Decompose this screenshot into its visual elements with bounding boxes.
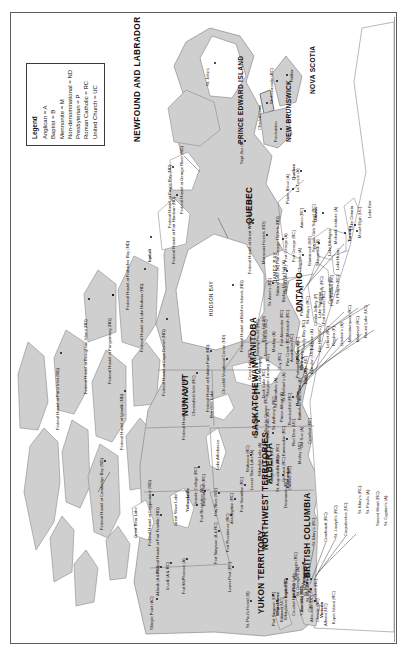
site-dot-lac-la-ronge (258, 392, 260, 394)
site-dot-mohawk-institute (356, 230, 358, 232)
callout-label-sacred-heart: Sacred Heart (RC) (376, 491, 380, 526)
site-label-ile-a-la-crosse: Ile-a-la-Crosse (RC) (264, 395, 268, 432)
site-dot-shubenacadie (276, 80, 278, 82)
city-label-st-johns: St. John's (206, 68, 210, 86)
site-dot-cambridge-bay (104, 460, 106, 462)
site-label-kamloops: Kamloops (RC) (294, 552, 298, 580)
site-label-desmarais: Desmarais (RC) (284, 479, 288, 508)
site-dot-baker-lake (186, 390, 188, 392)
site-label-eskimo-point: Federal Hostel at Eskimo Point (ND) (206, 345, 210, 413)
city-dot-vancouver (310, 578, 312, 580)
site-label-fort-george-hostels: Fort George Hostels (ND) (276, 216, 280, 264)
site-label-alberni: Alberni (UC) (324, 603, 328, 626)
site-dot-beauval (258, 420, 260, 422)
site-dot-coppermine (152, 494, 154, 496)
site-dot-st-annes (272, 282, 274, 284)
city-dot-regina (292, 396, 294, 398)
site-label-brandon: Brandon (UC) (310, 349, 314, 374)
callout-label-st-pauls-ab: St. Paul's (A) (366, 490, 370, 514)
site-dot-lake-harbour (144, 268, 146, 270)
callout-label-elkhorn: Elkhorn (A) (310, 329, 314, 350)
site-label-prince-albert: Prince Albert (A) (280, 392, 284, 422)
site-label-lac-la-ronge: Lac La Ronge (A) (254, 376, 258, 408)
province-label-ns: NOVA SCOTIA (310, 46, 317, 94)
site-label-port-simpson: Port Simpson (UC) (272, 592, 276, 626)
site-label-spanish-girls-school: Spanish Girls School (RC) (312, 204, 316, 252)
site-label-payne-bay: Federal Hostel at Payne Bay (ND) (168, 165, 172, 228)
site-label-fort-harrison: Federal Hostel at Fort Harrison (ND) (172, 197, 176, 264)
site-dot-port-simpson (276, 600, 278, 602)
site-label-beauval: Beauval (RC) (254, 413, 258, 438)
site-label-st-albert: St. Albert (RC) (276, 444, 280, 470)
site-dot-fort-harrison (176, 194, 178, 196)
site-label-sept-iles: Sept-Iles (RC) (240, 138, 244, 164)
site-label-red-deer: Red Deer (UC) (292, 419, 296, 446)
site-dot-grandin-college (198, 466, 200, 468)
site-label-poplar-hill: Poplar Hill (M) (262, 316, 266, 342)
city-dot-charlottetown (266, 102, 268, 104)
site-label-ermineskin: Ermineskin (RC) (282, 426, 286, 456)
site-label-cross-lake: Cross Lake (RC) (248, 350, 252, 380)
site-label-pointe-bleue: Pointe Bleue (A) (286, 174, 290, 204)
site-dot-inuvik (170, 562, 172, 564)
site-label-belcher-islands: Federal Hostel at Belcher Islands (ND) (240, 280, 244, 352)
site-label-norway-house-rc: Norway House (RC) (256, 319, 260, 356)
site-label-fort-franklin: Federal Hostel at Fort Franklin (ND) (156, 507, 160, 574)
site-dot-pointe-bleue (292, 188, 294, 190)
site-label-frobisher-bay: Federal Hostel at Frobisher Bay (ND) (126, 241, 130, 310)
site-label-fort-alexander: Fort Alexander (RC) (280, 310, 284, 346)
callout-label-regina-school: Regina (P) (332, 326, 336, 346)
site-label-churchill: Churchill Vocational Centre (ND) (222, 335, 226, 394)
legend-entry-unitedchurch: United Church = UC (91, 70, 99, 139)
lake-label-reindeer: Reindeer Lake (210, 391, 214, 418)
lake-label-erie: Lake Erie (368, 200, 372, 218)
callout-label-lebret: Lebret (RC) (326, 326, 330, 348)
site-label-assumption: Assumption (RC) (230, 493, 234, 524)
site-dot-great-whale-river (252, 222, 254, 224)
city-label-charlottetown: Charlottetown (258, 105, 262, 130)
site-label-whitefish-lake: Whitefish Lake (A) (258, 443, 262, 476)
province-label-pei: PRINCE EDWARD ISLAND (238, 56, 245, 144)
legend-entry-anglican: Anglican = A (41, 70, 49, 139)
site-label-duck-lake: Duck Lake (RC) (262, 369, 266, 398)
site-dot-wabasca (250, 454, 252, 456)
site-dot-payne-bay (172, 166, 174, 168)
site-label-grandin-college: Grandin College (RC) (194, 467, 198, 506)
callout-label-round-lake: Round Lake (UC) (364, 305, 368, 338)
site-dot-spanish-girls-school (318, 242, 320, 244)
site-label-mackay: Mackay (A) (272, 331, 276, 352)
site-label-chapleau: Chapleau (A) (298, 248, 302, 272)
lake-label-huron: Lake Huron (336, 248, 340, 270)
city-dot-iqaluit (150, 236, 152, 238)
site-label-portage-la-prairie: Portage la Prairie (UC) (296, 337, 300, 378)
city-dot-ottawa (322, 212, 324, 214)
callout-label-st-marys-ab: St. Mary's (RC) (358, 486, 362, 514)
site-label-fort-frances: Fort Frances (RC) (322, 291, 326, 324)
site-label-hay-river: Hay River (ND) (214, 488, 218, 516)
site-label-kitimaat: Kitimaat (UC) (280, 597, 284, 622)
site-label-st-marys-on: St. Mary's (RC) (306, 296, 310, 324)
site-dot-kamloops (302, 562, 304, 564)
site-label-fort-george-rc: Fort George (RC) (292, 230, 296, 262)
city-label-yellowknife: Yellowknife (186, 488, 190, 512)
site-label-thunderchild: Thunderchild (RC) (288, 393, 292, 426)
legend-entry-nondenom: Non-denominational = ND (66, 70, 74, 139)
site-label-cape-dorset: Federal Hostel at Cape Dorset (ND) (162, 329, 166, 396)
site-label-sturgeon-landing: Sturgeon Landing (RC) (266, 354, 270, 396)
callout-label-file-hills: File Hills (UC) (318, 326, 322, 352)
site-dot-fort-franklin (160, 514, 162, 516)
province-label-nl: NEWFOUND AND LABRADOR (134, 17, 142, 142)
site-label-fort-mcpherson: Fort McPherson (A) (182, 558, 186, 594)
site-dot-pangnirtung (112, 294, 114, 296)
city-dot-fredericton (280, 128, 282, 130)
site-label-morley: Morley (UC) (298, 442, 302, 464)
site-dot-mistassini-hostels (266, 234, 268, 236)
site-label-pond-inlet: Federal Hostel at Pond Inlet (ND) (56, 368, 60, 430)
city-dot-halifax (286, 74, 288, 76)
site-label-amos: Amos (RC) (300, 208, 304, 228)
site-dot-igloolik (124, 390, 126, 392)
site-label-st-pauls: St. Paul's (RC) (304, 569, 308, 596)
site-label-lower-post: Lower Post (RC) (228, 562, 232, 592)
site-dot-mount-elgin (354, 224, 356, 226)
legend-entry-catholic: Roman Catholic = RC (82, 70, 90, 139)
